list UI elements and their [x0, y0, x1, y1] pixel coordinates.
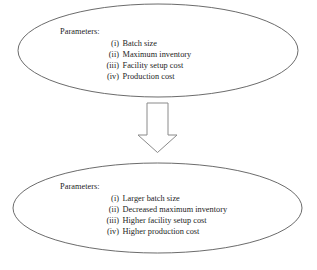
diagram-canvas: Parameters: (i)Batch size (ii)Maximum in… [0, 0, 317, 270]
list-item: (iii)Facility setup cost [60, 60, 191, 71]
top-node-item-list: (i)Batch size (ii)Maximum inventory (iii… [60, 38, 191, 83]
list-item: (ii)Decreased maximum inventory [60, 204, 227, 215]
item-numeral: (iv) [98, 71, 119, 82]
item-numeral: (iii) [98, 60, 119, 71]
item-numeral: (ii) [98, 49, 119, 60]
list-item: (i)Larger batch size [60, 193, 227, 204]
list-item: (i)Batch size [60, 38, 191, 49]
top-node-content: Parameters: (i)Batch size (ii)Maximum in… [60, 26, 191, 82]
item-label: Higher facility setup cost [123, 215, 207, 226]
item-numeral: (iv) [98, 226, 119, 237]
down-block-arrow-icon [138, 103, 177, 153]
bottom-node-heading: Parameters: [60, 181, 227, 192]
list-item: (iv)Higher production cost [60, 226, 227, 237]
list-item: (iv)Production cost [60, 71, 191, 82]
item-label: Facility setup cost [123, 60, 184, 71]
item-numeral: (iii) [98, 215, 119, 226]
item-label: Batch size [123, 38, 158, 49]
list-item: (iii)Higher facility setup cost [60, 215, 227, 226]
bottom-node-content: Parameters: (i)Larger batch size (ii)Dec… [60, 181, 227, 237]
item-numeral: (ii) [98, 204, 119, 215]
item-label: Maximum inventory [123, 49, 192, 60]
list-item: (ii)Maximum inventory [60, 49, 191, 60]
item-label: Higher production cost [123, 226, 200, 237]
bottom-node-item-list: (i)Larger batch size (ii)Decreased maxim… [60, 193, 227, 238]
item-numeral: (i) [98, 193, 119, 204]
item-label: Decreased maximum inventory [123, 204, 228, 215]
item-label: Production cost [123, 71, 175, 82]
item-label: Larger batch size [123, 193, 180, 204]
item-numeral: (i) [98, 38, 119, 49]
top-node-heading: Parameters: [60, 26, 191, 37]
